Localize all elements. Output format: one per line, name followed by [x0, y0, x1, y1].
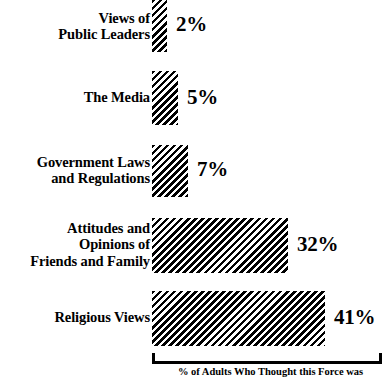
axis-tick-right [379, 353, 382, 364]
value-label: 2% [176, 14, 207, 35]
bar-segment [152, 291, 325, 346]
axis-caption: % of Adults Who Thought this Force was [152, 366, 389, 378]
category-label: Views of Public Leaders [0, 10, 150, 43]
value-label: 32% [297, 234, 338, 255]
value-label: 7% [197, 159, 228, 180]
value-label: 41% [334, 307, 375, 328]
axis-line [152, 361, 382, 364]
category-label: The Media [0, 89, 150, 105]
bar-segment [152, 0, 167, 52]
category-label: Government Laws and Regulations [0, 154, 150, 187]
bar-segment [152, 218, 288, 273]
axis-bracket [152, 352, 382, 364]
bar-segment [152, 145, 188, 197]
bar-row: Government Laws and Regulations 7% [0, 145, 389, 197]
category-label: Attitudes and Opinions of Friends and Fa… [0, 220, 150, 269]
bar-row: Religious Views 41% [0, 291, 389, 346]
bar-segment [152, 71, 178, 125]
bar-row: The Media 5% [0, 71, 389, 125]
category-label: Religious Views [0, 309, 150, 325]
value-label: 5% [187, 87, 218, 108]
bar-row: Attitudes and Opinions of Friends and Fa… [0, 218, 389, 273]
bar-row: Views of Public Leaders 2% [0, 0, 389, 52]
